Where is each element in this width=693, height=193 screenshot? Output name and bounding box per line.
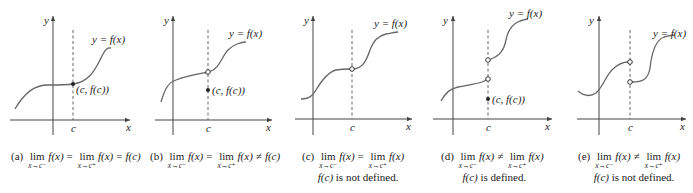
caption-tag: (d) [441, 150, 454, 162]
open-point-upper [628, 60, 633, 65]
caption-tag: (c) [302, 150, 314, 162]
expr-left: f(x) [479, 150, 494, 162]
function-curve-left [441, 80, 486, 102]
expr-left: f(x) [48, 150, 63, 162]
function-curve-right [632, 35, 674, 82]
caption-d: (d) limx→c⁻ f(x) ≠ limx→c⁺ f(x) f(c) is … [441, 150, 544, 183]
panel-e-graph: y x c y = f(x) [577, 14, 686, 135]
open-point [206, 70, 211, 75]
function-curve [15, 48, 111, 109]
c-label: c [628, 121, 633, 133]
expr-right: f(x) [389, 150, 404, 162]
point-label: (c, f(c)) [212, 84, 245, 97]
curve-label: y = f(x) [373, 17, 407, 30]
panel-a-graph: y x c y = f(x) (c, f(c)) [10, 14, 131, 135]
caption-tag: (e) [578, 150, 590, 162]
definition-note: f(c) is not defined. [578, 171, 680, 183]
limit-right: limx→c⁺ [645, 150, 663, 170]
point-label: (c, f(c)) [492, 93, 525, 106]
curve-label: y = f(x) [508, 7, 542, 20]
caption-a: (a) limx→c⁻ f(x) = limx→c⁺ f(x) = f(c) [11, 150, 141, 170]
caption-tag: (b) [150, 150, 163, 162]
panel-c-graph: y x c y = f(x) [295, 14, 412, 135]
fc-value: f(c) [265, 150, 280, 162]
panel-b-graph: y x c y = f(x) (c, f(c)) [155, 14, 272, 135]
expr-right: f(x) [238, 150, 253, 162]
curve-label: y = f(x) [652, 27, 686, 40]
operator: ≠ [634, 150, 640, 162]
function-curve-right [210, 42, 246, 72]
expr-right: f(x) [665, 150, 680, 162]
y-axis-label: y [163, 14, 169, 26]
limit-left: limx→c⁻ [28, 150, 46, 170]
operator: = [206, 150, 212, 162]
caption-tag: (a) [11, 150, 23, 162]
c-label: c [486, 121, 491, 133]
open-point-lower [486, 77, 491, 82]
limit-right: limx→c⁺ [217, 150, 235, 170]
function-curve-right [490, 19, 528, 60]
filled-point [71, 82, 75, 86]
y-axis-label: y [442, 14, 448, 26]
expr-left: f(x) [188, 150, 203, 162]
x-axis-label: x [679, 120, 685, 132]
limit-right: limx→c⁺ [78, 150, 96, 170]
point-label: (c, f(c)) [76, 83, 109, 96]
expr-right: f(x) [528, 150, 543, 162]
c-label: c [71, 122, 76, 134]
fc-value: f(c) [125, 150, 140, 162]
expr-left: f(x) [339, 150, 354, 162]
caption-b: (b) limx→c⁻ f(x) = limx→c⁺ f(x) ≠ f(c) [150, 150, 280, 170]
function-curve-left [578, 62, 628, 95]
operator: ≠ [256, 150, 262, 162]
operator: ≠ [497, 150, 503, 162]
filled-point [206, 88, 210, 92]
limit-right: limx→c⁺ [508, 150, 526, 170]
panel-d-graph: y x c y = f(x) (c, f(c)) [433, 7, 552, 135]
caption-e: (e) limx→c⁻ f(x) ≠ limx→c⁺ f(x) f(c) is … [578, 150, 680, 183]
c-label: c [206, 122, 211, 134]
y-axis-label: y [303, 14, 309, 26]
open-point-lower [628, 80, 633, 85]
expr-right: f(x) [98, 150, 113, 162]
filled-point [486, 97, 490, 101]
function-curve-left [161, 73, 206, 103]
x-axis-label: x [125, 121, 131, 133]
curve-label: y = f(x) [228, 27, 262, 40]
operator: = [358, 150, 364, 162]
limit-left: limx→c⁻ [168, 150, 186, 170]
function-curve-left [301, 69, 350, 99]
y-axis-label: y [588, 14, 594, 26]
limit-left: limx→c⁻ [459, 150, 477, 170]
y-axis-label: y [43, 14, 49, 26]
open-point-upper [486, 58, 491, 63]
open-point [350, 67, 355, 72]
limit-left: limx→c⁻ [595, 150, 613, 170]
expr-left: f(x) [615, 150, 630, 162]
x-axis-label: x [405, 120, 411, 132]
definition-note: f(c) is not defined. [302, 171, 404, 183]
x-axis-label: x [544, 120, 550, 132]
operator: = [116, 150, 122, 162]
curve-label: y = f(x) [91, 33, 125, 46]
operator: = [67, 150, 73, 162]
x-axis-label: x [265, 121, 271, 133]
definition-note: f(c) is defined. [441, 171, 544, 183]
c-label: c [350, 121, 355, 133]
function-curve-right [354, 32, 398, 69]
limit-left: limx→c⁻ [319, 150, 337, 170]
caption-c: (c) limx→c⁻ f(x) = limx→c⁺ f(x) f(c) is … [302, 150, 404, 183]
limit-right: limx→c⁺ [369, 150, 387, 170]
